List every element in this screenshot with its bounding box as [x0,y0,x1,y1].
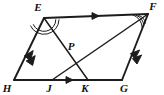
segment-fg [122,14,148,80]
double-arrow-tick-eh [24,51,35,66]
vertex-label-k: K [80,82,89,94]
vertex-label-f: F [148,0,157,12]
vertex-label-g: G [120,82,128,94]
vertex-label-j: J [45,82,52,94]
arrow-tick-jk [66,77,73,84]
geometry-canvas: E F G H J K P [0,0,164,95]
vertex-label-h: H [2,82,12,94]
geometry-figure: E F G H J K P [0,0,164,95]
point-label-p: P [68,40,75,52]
vertex-label-e: E [33,1,41,13]
arrow-tick-ef [92,13,99,20]
segment-jf [52,14,148,80]
segment-eh [14,18,44,80]
interior-segments [44,14,148,80]
